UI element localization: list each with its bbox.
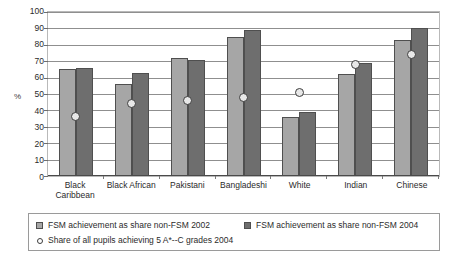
x-axis-label: Indian <box>328 180 384 200</box>
y-tick-label: 30 <box>35 123 44 131</box>
y-tick-label: 60 <box>35 73 44 81</box>
x-axis-baseline <box>48 175 439 176</box>
x-axis-label: Bangladeshi <box>215 180 271 200</box>
bar-pair <box>104 12 160 176</box>
bar-groups <box>48 12 439 176</box>
x-axis-category-labels: BlackCaribbeanBlack AfricanPakistaniBang… <box>47 180 440 200</box>
x-tick-mark <box>270 176 271 179</box>
y-tick-label: 100 <box>30 7 44 15</box>
x-axis-label: Chinese <box>384 180 440 200</box>
bar <box>171 58 188 176</box>
legend-row-bottom: Share of all pupils achieving 5 A*--C gr… <box>36 236 233 245</box>
bar-pair <box>48 12 104 176</box>
legend-entry-all-pupils: Share of all pupils achieving 5 A*--C gr… <box>36 236 233 245</box>
data-point-marker <box>239 93 248 102</box>
bar-group <box>216 12 272 176</box>
x-axis-label-line: Pakistani <box>159 180 215 190</box>
y-tick-label: 70 <box>35 57 44 65</box>
bar <box>76 68 93 176</box>
y-tick-label: 10 <box>35 156 44 164</box>
legend-label: FSM achievement as share non-FSM 2004 <box>256 221 418 230</box>
bar-pair <box>160 12 216 176</box>
y-tick-label: 40 <box>35 107 44 115</box>
bar <box>59 69 76 176</box>
bar <box>227 37 244 176</box>
y-tick-mark <box>44 176 48 177</box>
x-axis-label-line: Black <box>47 180 103 190</box>
bar-pair <box>383 12 439 176</box>
y-tick-label: 50 <box>35 90 44 98</box>
bar-group <box>48 12 104 176</box>
x-axis-label-line: Indian <box>328 180 384 190</box>
y-axis-tick-labels: 100 90 80 70 60 50 40 30 20 10 0 <box>20 11 44 177</box>
bar <box>244 30 261 176</box>
x-tick-mark <box>103 176 104 179</box>
x-axis-label-line: Black African <box>103 180 159 190</box>
x-axis-label: White <box>272 180 328 200</box>
x-tick-mark <box>159 176 160 179</box>
bar <box>394 40 411 176</box>
y-tick-label: 0 <box>39 173 44 181</box>
x-axis-label-line: Chinese <box>384 180 440 190</box>
square-dark-gray-icon <box>244 222 251 229</box>
legend-label: Share of all pupils achieving 5 A*--C gr… <box>48 236 233 245</box>
bar-group <box>383 12 439 176</box>
chart-legend: FSM achievement as share non-FSM 2002 FS… <box>28 213 440 251</box>
bar <box>282 117 299 176</box>
data-point-marker <box>351 60 360 69</box>
bar-group <box>271 12 327 176</box>
bar <box>299 112 316 176</box>
plot-area <box>47 11 440 177</box>
bar <box>338 74 355 176</box>
y-tick-label: 20 <box>35 140 44 148</box>
circle-outline-icon <box>37 238 43 244</box>
bar-group <box>327 12 383 176</box>
x-axis-label-line: Bangladeshi <box>215 180 271 190</box>
x-axis-label: Pakistani <box>159 180 215 200</box>
x-axis-label-line: White <box>272 180 328 190</box>
square-light-gray-icon <box>36 222 43 229</box>
x-tick-mark <box>438 176 439 179</box>
x-tick-mark <box>382 176 383 179</box>
x-axis-label: BlackCaribbean <box>47 180 103 200</box>
bar <box>188 60 205 176</box>
bar <box>355 63 372 176</box>
legend-label: FSM achievement as share non-FSM 2002 <box>48 221 210 230</box>
y-tick-label: 80 <box>35 40 44 48</box>
bar-chart: % 100 90 80 70 60 50 40 30 20 10 0 Black… <box>0 0 455 200</box>
bar-group <box>104 12 160 176</box>
data-point-marker <box>407 50 416 59</box>
x-tick-mark <box>326 176 327 179</box>
x-axis-label: Black African <box>103 180 159 200</box>
x-axis-label-line: Caribbean <box>47 190 103 200</box>
bar <box>132 73 149 176</box>
legend-entry-2004: FSM achievement as share non-FSM 2004 <box>244 221 418 230</box>
bar-pair <box>327 12 383 176</box>
bar-group <box>160 12 216 176</box>
legend-entry-2002: FSM achievement as share non-FSM 2002 <box>36 221 210 230</box>
bar <box>115 84 132 176</box>
legend-row-top: FSM achievement as share non-FSM 2002 FS… <box>36 221 418 230</box>
x-tick-mark <box>215 176 216 179</box>
data-point-marker <box>295 88 304 97</box>
y-tick-label: 90 <box>35 24 44 32</box>
